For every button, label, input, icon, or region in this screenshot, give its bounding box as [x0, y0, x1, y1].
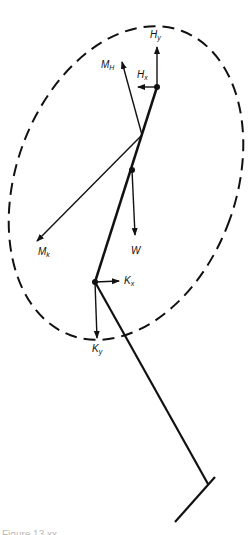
label-ky: Ky — [92, 343, 103, 356]
foot-segment — [175, 477, 215, 522]
thigh-segment — [95, 87, 157, 282]
limb-segments — [95, 87, 215, 522]
label-hy: Hy — [150, 29, 161, 42]
figure-caption: Figure 13.xx — [2, 528, 57, 535]
kx-arrow — [95, 281, 119, 282]
label-kx: Kx — [124, 275, 135, 287]
label-mh: MH — [101, 59, 115, 71]
label-hx: Hx — [137, 69, 148, 81]
mk-arrow — [37, 135, 142, 241]
system-boundary-ellipse — [0, 0, 248, 373]
shank-segment — [95, 282, 208, 484]
label-mk: Mk — [38, 246, 50, 258]
label-w: W — [131, 245, 142, 256]
ky-arrow — [95, 282, 97, 338]
free-body-diagram: Hy Hx MH Mk W Kx Ky — [0, 0, 248, 535]
w-arrow — [132, 170, 135, 235]
